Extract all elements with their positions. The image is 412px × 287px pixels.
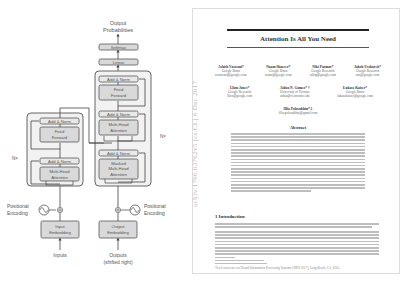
- title-rule-bottom: [227, 47, 369, 48]
- svg-text:Input: Input: [55, 224, 65, 229]
- authors-row-3: Illia Polosukhin* ‡illia.polosukhin@gmai…: [215, 107, 381, 115]
- author: Niki Parmar*Google Researchnikip@google.…: [310, 65, 336, 78]
- paper-title: Attention Is All You Need: [227, 35, 369, 43]
- introduction-heading: 1 Introduction: [215, 214, 245, 219]
- output-probabilities-label-2: Probabilities: [103, 27, 133, 33]
- introduction-body: [215, 223, 379, 229]
- linear-block: Linear: [99, 59, 138, 65]
- author: Illia Polosukhin* ‡illia.polosukhin@gmai…: [279, 107, 318, 115]
- authors-row-2: Llion Jones*Google Researchllion@google.…: [227, 86, 373, 99]
- svg-text:Add & Norm: Add & Norm: [48, 119, 71, 124]
- svg-text:Positional: Positional: [144, 203, 166, 209]
- encoder-nx-label: N×: [12, 156, 18, 161]
- svg-text:Encoding: Encoding: [144, 210, 165, 216]
- svg-text:Feed: Feed: [114, 87, 124, 92]
- author: Aidan N. Gomez* †University of Torontoai…: [280, 86, 310, 99]
- svg-text:Forward: Forward: [52, 135, 68, 140]
- svg-text:Multi-Head: Multi-Head: [108, 166, 129, 171]
- decoder-stack: Add & Norm Feed Forward Add & Norm Multi…: [95, 71, 151, 186]
- abstract-heading: Abstract: [227, 125, 369, 130]
- title-rule-top: [227, 29, 369, 31]
- svg-text:Encoding: Encoding: [7, 210, 28, 216]
- svg-text:Linear: Linear: [113, 60, 125, 65]
- svg-text:Embedding: Embedding: [49, 230, 71, 235]
- svg-text:Add & Norm: Add & Norm: [107, 77, 130, 82]
- author: Noam Shazeer*Google Brainnoam@google.com: [265, 65, 292, 78]
- svg-text:Attention: Attention: [51, 175, 68, 180]
- paper-first-page: arXiv:1706.03762v5 [cs.CL] 6 Dec 2017 At…: [192, 8, 400, 274]
- transformer-architecture-diagram: Output Probabilities Softmax Linear Add …: [0, 0, 190, 287]
- svg-text:Attention: Attention: [110, 172, 127, 177]
- decoder-nx-label: N×: [160, 134, 166, 139]
- footnote-body: [215, 231, 379, 266]
- svg-text:Softmax: Softmax: [111, 45, 127, 50]
- outputs-label: Outputs: [109, 252, 127, 258]
- encoder-positional-encoding: Positional Encoding: [7, 203, 63, 216]
- conference-footer: 31st Conference on Neural Information Pr…: [215, 266, 340, 270]
- inputs-label: Inputs: [53, 252, 67, 258]
- softmax-block: Softmax: [99, 44, 138, 50]
- abstract-body: [231, 133, 365, 194]
- svg-text:Multi-Head: Multi-Head: [49, 169, 70, 174]
- svg-text:Embedding: Embedding: [107, 230, 129, 235]
- author: Llion Jones*Google Researchllion@google.…: [227, 86, 252, 99]
- svg-text:Feed: Feed: [55, 129, 65, 134]
- encoder-stack: Add & Norm Feed Forward Add & Norm Multi…: [27, 113, 83, 186]
- arxiv-stamp: arXiv:1706.03762v5 [cs.CL] 6 Dec 2017: [191, 69, 207, 219]
- authors-row-1: Ashish Vaswani*Google Brainavaswani@goog…: [215, 65, 381, 78]
- svg-text:Add & Norm: Add & Norm: [107, 151, 130, 156]
- svg-text:Attention: Attention: [110, 128, 127, 133]
- author: Łukasz Kaiser*Google Brainlukaszkaiser@g…: [337, 86, 373, 99]
- svg-text:Multi-Head: Multi-Head: [108, 122, 129, 127]
- input-embedding-block: Input Embedding: [41, 221, 79, 238]
- svg-text:Positional: Positional: [7, 203, 29, 209]
- svg-text:Forward: Forward: [111, 93, 127, 98]
- output-probabilities-label: Output: [110, 20, 127, 26]
- svg-text:Add & Norm: Add & Norm: [48, 159, 71, 164]
- outputs-shifted-label: (shifted right): [103, 259, 133, 265]
- svg-text:Add & Norm: Add & Norm: [107, 112, 130, 117]
- svg-text:Masked: Masked: [111, 161, 126, 166]
- decoder-positional-encoding: Positional Encoding: [115, 203, 165, 216]
- output-embedding-block: Output Embedding: [99, 221, 137, 238]
- author: Jakob Uszkoreit*Google Researchusz@googl…: [354, 65, 381, 78]
- author: Ashish Vaswani*Google Brainavaswani@goog…: [215, 65, 247, 78]
- svg-text:Output: Output: [112, 224, 126, 229]
